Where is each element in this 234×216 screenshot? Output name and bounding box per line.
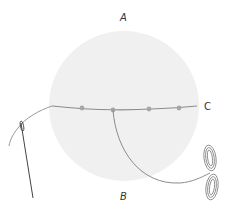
label-b: B [120, 192, 127, 202]
label-c: C [204, 102, 211, 112]
thread-to-needle [9, 106, 52, 146]
stitch-diagram [0, 0, 234, 216]
stitch-dot [147, 107, 152, 112]
stitch-dot [177, 106, 182, 111]
thread-bow [202, 144, 220, 200]
fabric-circle [49, 31, 199, 181]
stitch-dot [80, 106, 85, 111]
needle-icon [20, 121, 33, 198]
label-a: A [120, 13, 127, 23]
